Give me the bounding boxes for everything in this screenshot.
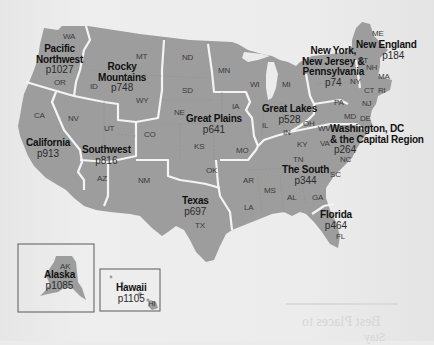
state-label-wi: WI: [250, 80, 259, 89]
bleed-through-text-line2: Stay: [364, 330, 385, 345]
region-label-florida[interactable]: Florida p464: [320, 210, 352, 231]
state-label-id: ID: [90, 82, 98, 91]
state-label-wa: WA: [63, 32, 75, 41]
state-label-nc: NC: [340, 155, 351, 164]
region-label-washington-dc[interactable]: Washington, DC & the Capital Region p264: [330, 124, 424, 156]
state-label-ga: GA: [312, 193, 323, 202]
state-label-ok: OK: [206, 166, 217, 175]
state-label-ri: RI: [378, 86, 386, 95]
state-label-al: AL: [287, 193, 296, 202]
state-label-hi: HI: [148, 299, 156, 308]
region-label-texas[interactable]: Texas p697: [182, 196, 209, 217]
state-label-ne: NE: [174, 108, 185, 117]
region-label-pacific-northwest[interactable]: Pacific Northwest p1027: [36, 44, 83, 76]
state-label-nm: NM: [138, 176, 150, 185]
state-label-tx: TX: [195, 221, 205, 230]
state-label-nv: NV: [68, 114, 79, 123]
state-label-la: LA: [244, 203, 253, 212]
region-label-rocky-mountains[interactable]: Rocky Mountains p748: [98, 62, 146, 94]
state-label-ia: IA: [232, 102, 239, 111]
state-label-az: AZ: [97, 174, 107, 183]
state-label-de: DE: [360, 114, 371, 123]
region-label-great-plains[interactable]: Great Plains p641: [186, 114, 242, 135]
state-label-sc: SC: [330, 170, 341, 179]
state-label-oh: OH: [303, 119, 315, 128]
state-label-ct: CT: [364, 86, 374, 95]
state-label-va: VA: [320, 139, 330, 148]
bleed-through-text-line1: Best Places to: [302, 314, 381, 330]
state-label-tn: TN: [293, 155, 303, 164]
state-label-nj: NJ: [362, 99, 371, 108]
state-label-mn: MN: [218, 66, 230, 75]
state-label-ky: KY: [297, 140, 307, 149]
state-label-sd: SD: [182, 86, 193, 95]
region-label-hawaii[interactable]: Hawaii p1105: [116, 283, 146, 304]
state-label-nd: ND: [182, 53, 193, 62]
region-label-the-south[interactable]: The South p344: [282, 165, 329, 186]
state-label-mi: MI: [282, 80, 291, 89]
state-label-or: OR: [54, 78, 66, 87]
state-label-wy: WY: [136, 96, 149, 105]
state-label-fl: FL: [336, 232, 345, 241]
region-label-alaska[interactable]: Alaska p1085: [44, 270, 75, 291]
state-label-il: IL: [262, 121, 268, 130]
region-label-southwest[interactable]: Southwest p816: [82, 145, 131, 166]
state-label-ca: CA: [34, 111, 45, 120]
state-label-ut: UT: [104, 124, 114, 133]
region-label-california[interactable]: California p913: [26, 138, 70, 159]
state-label-ma: MA: [378, 72, 390, 81]
state-label-ks: KS: [194, 142, 204, 151]
state-label-me: ME: [372, 29, 384, 38]
state-label-pa: PA: [334, 98, 344, 107]
state-label-nh: NH: [366, 63, 377, 72]
bleed-through-rule: [286, 303, 398, 305]
state-label-ar: AR: [243, 176, 254, 185]
state-label-in: IN: [283, 128, 291, 137]
state-label-mo: MO: [236, 146, 249, 155]
state-label-ms: MS: [264, 186, 276, 195]
state-label-md: MD: [344, 112, 356, 121]
state-label-co: CO: [144, 130, 156, 139]
state-label-ak: AK: [60, 262, 70, 271]
state-label-ny: NY: [350, 77, 361, 86]
state-label-mt: MT: [136, 52, 147, 61]
state-label-wv: WV: [318, 124, 331, 133]
